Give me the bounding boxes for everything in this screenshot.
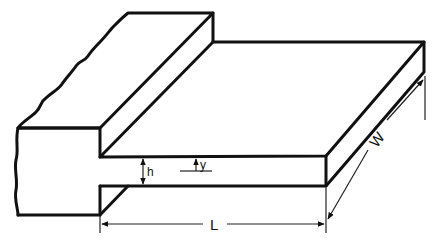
y-label: y: [200, 158, 206, 172]
y-coordinate-indicator: y: [180, 158, 212, 172]
length-dimension: L: [100, 188, 326, 233]
width-label: W: [366, 128, 389, 150]
thickness-dimension: h: [143, 159, 154, 184]
length-label: L: [210, 216, 218, 233]
thickness-label: h: [147, 165, 154, 179]
cantilever-plate-diagram: h y L W: [0, 0, 437, 249]
